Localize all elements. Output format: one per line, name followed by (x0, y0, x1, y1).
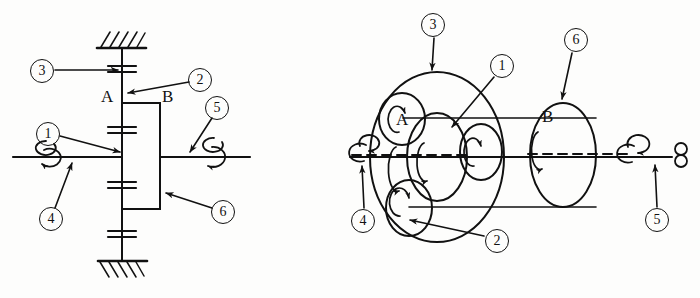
right-label-A: A (396, 111, 408, 128)
shaft-end-double-loop-icon (675, 143, 687, 167)
spin-arrow-disc-b (532, 132, 542, 170)
centerline-dashes (352, 154, 632, 155)
left-label-A: A (101, 88, 113, 105)
left-callout-2[interactable]: 2 (188, 68, 212, 92)
leader-line-r6 (562, 53, 572, 99)
leader-line-r5 (655, 165, 657, 207)
left-callout-4[interactable]: 4 (39, 207, 63, 231)
left-label-B: B (162, 88, 173, 105)
right-callout-6[interactable]: 6 (564, 28, 588, 52)
rotation-arrow-output (203, 138, 225, 167)
right-label-B: B (542, 108, 553, 125)
left-callout-3[interactable]: 3 (30, 59, 54, 83)
right-callout-1[interactable]: 1 (490, 54, 514, 78)
leader-line-r3 (432, 38, 434, 70)
leader-line-4 (55, 163, 72, 208)
figure-canvas: A B 3 2 5 1 4 6 A B 3 6 1 2 4 5 (0, 0, 700, 298)
left-callout-5[interactable]: 5 (205, 96, 229, 120)
leader-line-5 (190, 118, 212, 152)
leader-line-6 (166, 193, 212, 208)
left-callout-6[interactable]: 6 (211, 200, 235, 224)
right-callout-4[interactable]: 4 (351, 209, 375, 233)
left-callout-1[interactable]: 1 (36, 122, 60, 146)
right-callout-5[interactable]: 5 (645, 208, 669, 232)
spin-arrow-sun (417, 143, 427, 181)
leader-line-r4 (362, 166, 364, 208)
ground-hatch-bottom (98, 261, 147, 277)
right-callout-2[interactable]: 2 (485, 229, 509, 253)
right-pictorial-group (349, 38, 687, 242)
right-callout-3[interactable]: 3 (421, 13, 445, 37)
rotation-arrow-right-output (617, 135, 649, 163)
spin-arrow-planet-2 (389, 188, 409, 216)
leader-line-2 (128, 82, 189, 93)
ground-hatch-top (97, 32, 146, 48)
leader-line-1 (60, 136, 120, 152)
line-art-layer (0, 0, 700, 298)
planet-carrier-outline (122, 103, 160, 209)
